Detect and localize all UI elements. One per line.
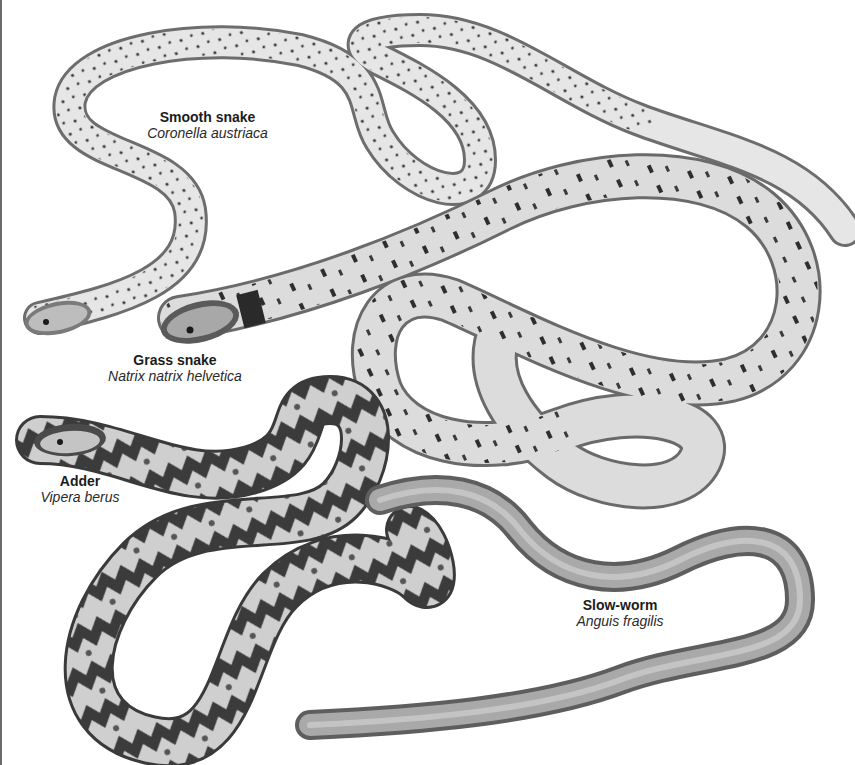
smooth-snake-eye-icon	[43, 319, 49, 325]
latin-name: Coronella austriaca	[140, 125, 275, 141]
snake-illustration: Smooth snake Coronella austriaca Grass s…	[0, 0, 855, 765]
adder-eye-icon	[57, 439, 63, 445]
latin-name: Natrix natrix helvetica	[95, 368, 255, 384]
label-grass-snake: Grass snake Natrix natrix helvetica	[95, 352, 255, 384]
common-name: Adder	[25, 473, 135, 489]
common-name: Grass snake	[95, 352, 255, 368]
latin-name: Anguis fragilis	[555, 613, 685, 629]
label-slow-worm: Slow-worm Anguis fragilis	[555, 597, 685, 629]
label-smooth-snake: Smooth snake Coronella austriaca	[140, 109, 275, 141]
grass-snake-figure	[156, 176, 798, 486]
adder-figure	[33, 400, 431, 742]
common-name: Slow-worm	[555, 597, 685, 613]
common-name: Smooth snake	[140, 109, 275, 125]
grass-snake-eye-icon	[187, 327, 194, 334]
latin-name: Vipera berus	[25, 489, 135, 505]
label-adder: Adder Vipera berus	[25, 473, 135, 505]
